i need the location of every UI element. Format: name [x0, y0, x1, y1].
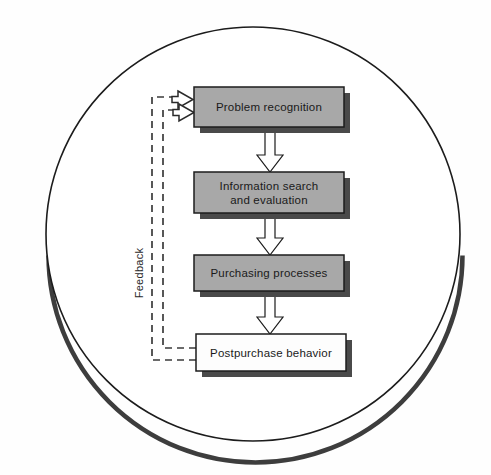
feedback-label: Feedback [133, 248, 145, 299]
diagram-canvas: Problem recognition Information search a… [0, 0, 491, 475]
node-postpurchase-behavior[interactable] [196, 334, 352, 377]
node-1-face [194, 87, 344, 127]
node-3-face [194, 255, 344, 291]
flowchart-svg [0, 0, 491, 475]
feedback-label-wrap: Feedback [130, 228, 148, 318]
node-purchasing-processes[interactable] [194, 255, 350, 297]
node-4-face [196, 334, 346, 371]
node-2-face [194, 172, 344, 213]
node-information-search[interactable] [194, 172, 350, 219]
node-problem-recognition[interactable] [194, 87, 350, 133]
